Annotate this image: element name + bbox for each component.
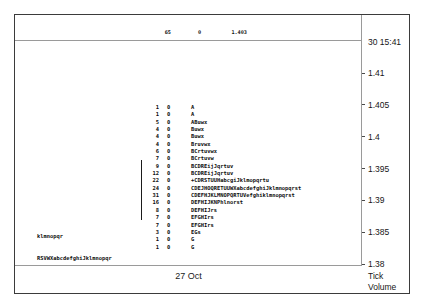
tpo-row: 240CDEJHOQRETUUWXabcdefghiJklmnopqrst [143,185,301,192]
tick-mark [362,232,365,233]
tpo-count: 1 [143,244,161,251]
tpo-count: 9 [143,163,161,170]
tpo-letters: A [191,104,194,111]
axis-caption-line1: Tick [368,271,383,282]
tpo-row: 160DEFHIJKNPhlnorst [143,199,301,206]
tpo-count: 12 [143,170,161,177]
tick-label: 1.39 [368,195,385,205]
tpo-letters: BCDREijJqrtuv [191,163,233,170]
tpo-volume: 0 [161,177,191,184]
tick-mark [362,73,365,74]
tpo-row: 310CDEFHJKLMNOPQRTUVefghiklmnopqrst [143,192,301,199]
tpo-letters: G [191,244,194,251]
tpo-row: 10G [143,244,301,251]
tpo-count: 4 [143,126,161,133]
x-axis-date-label: 27 Oct [15,271,362,281]
tpo-row: 10G [143,236,301,243]
tpo-volume: 0 [161,214,191,221]
tpo-letters: CDEFHJKLMNOPQRTUVefghiklmnopqrst [191,192,295,199]
tpo-row: 70EFGHIrs [143,214,301,221]
tpo-volume: 0 [161,170,191,177]
tpo-row: 120BCDREijJqrtuv [143,170,301,177]
tick-label: 1.405 [368,100,389,110]
tpo-letters: EGs [191,229,201,236]
tpo-row: 50ABuwx [143,119,301,126]
tpo-volume: 0 [161,155,191,162]
tpo-row: 60BCrtuvwx [143,148,301,155]
tpo-count: 1 [143,111,161,118]
tick-label: 1.385 [368,227,389,237]
tpo-volume: 0 [161,104,191,111]
tpo-row: 70BCrtuvw [143,155,301,162]
tpo-row: 220+CDRSTUUHabcgiJklmopqrtu [143,177,301,184]
tpo-row: 40Buwx [143,133,301,140]
tpo-letters: EFGHIrs [191,214,214,221]
side-label: RSVWXabcdefghiJklmnopqr [37,255,112,262]
tpo-row: 40Bruvwx [143,141,301,148]
tpo-volume: 0 [161,192,191,199]
tpo-volume: 0 [161,133,191,140]
side-annotation-labels: klmnopqr RSVWXabcdefghiJklmnopqr Habdfhi… [37,218,112,266]
header-row: 6501.403 [145,29,247,35]
tpo-letters: Buwx [191,126,204,133]
tpo-count: 3 [143,229,161,236]
tpo-volume: 0 [161,229,191,236]
tick-mark [362,168,365,169]
tpo-count: 1 [143,236,161,243]
tpo-letters: ABuwx [191,119,207,126]
tpo-count: 16 [143,199,161,206]
tpo-volume: 0 [161,199,191,206]
tpo-letters: BCDREijJqrtuv [191,170,233,177]
tpo-volume: 0 [161,185,191,192]
tpo-letters: Buwx [191,133,204,140]
tpo-letters: +CDRSTUUHabcgiJklmopqrtu [191,177,269,184]
axis-caption-line2: Volume [368,282,396,293]
tpo-volume: 0 [161,141,191,148]
tpo-count: 31 [143,192,161,199]
price-axis[interactable]: 30 15:411.411.4051.41.3951.391.3851.38Ti… [362,15,409,293]
tick-label: 1.395 [368,164,389,174]
tpo-letters: CDEJHOQRETUUWXabcdefghiJklmnopqrst [191,185,301,192]
x-axis: 27 Oct [15,266,362,293]
tpo-letters: A [191,111,194,118]
tpo-volume: 0 [161,207,191,214]
tick-mark [362,200,365,201]
value-area-bracket [141,160,142,220]
tpo-volume: 0 [161,236,191,243]
tpo-count: 5 [143,119,161,126]
tick-label: 1.4 [368,132,380,142]
tick-label: 1.41 [368,68,385,78]
tpo-letters: BCrtuvw [191,155,214,162]
tpo-letters: Bruvwx [191,141,210,148]
side-label: klmnopqr [37,233,112,240]
tpo-count: 4 [143,133,161,140]
axis-timestamp-label: 30 15:41 [368,37,401,47]
tpo-count: 7 [143,214,161,221]
market-profile-chart: 6501.403 7201.395 -609.42 klmnopqr RSVWX… [0,0,424,308]
tpo-profile: 10A10A50ABuwx40Buwx40Buwx40Bruvwx60BCrtu… [143,104,301,251]
tpo-letters: DEFHIJrs [191,207,217,214]
tick-mark [362,136,365,137]
header-zero: 0 [171,29,201,35]
header-price: 1.403 [201,29,247,35]
tpo-count: 4 [143,141,161,148]
tpo-letters: BCrtuvwx [191,148,217,155]
tpo-volume: 0 [161,244,191,251]
tpo-volume: 0 [161,126,191,133]
tpo-row: 80DEFHIJrs [143,207,301,214]
tpo-count: 7 [143,155,161,162]
tpo-volume: 0 [161,222,191,229]
header-band: 6501.403 7201.395 -609.42 [15,15,362,41]
tpo-row: 10A [143,111,301,118]
tpo-letters: DEFHIJKNPhlnorst [191,199,243,206]
tick-mark [362,104,365,105]
tpo-volume: 0 [161,163,191,170]
plot-area[interactable]: klmnopqr RSVWXabcdefghiJklmnopqr Habdfhi… [15,41,362,266]
tpo-row: 40Buwx [143,126,301,133]
tpo-count: 24 [143,185,161,192]
tick-mark [362,264,365,265]
tpo-letters: EFGHIrs [191,222,214,229]
tpo-letters: G [191,236,194,243]
tick-label: 1.38 [368,259,385,269]
tpo-count: 7 [143,222,161,229]
